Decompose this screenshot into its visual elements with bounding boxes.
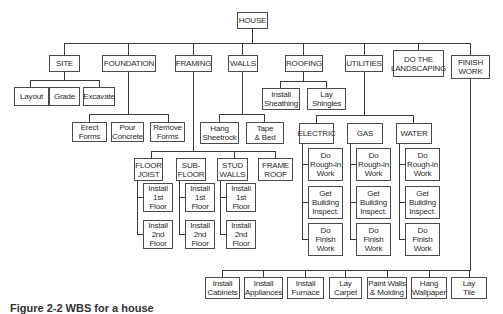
node-gas: GAS [347,123,383,144]
connector [242,71,243,114]
node-hang-wallpaper: Hang Wallpaper [411,277,447,299]
connector [30,80,31,87]
node-pour-concrete: Pour Concrete [111,122,144,142]
node-tape-and-bed: Tape & Bed [246,122,284,144]
node-floor-joist: FLOOR JOIST [134,158,163,181]
connector [252,28,253,43]
connector [222,270,471,271]
node-erect-forms: Erect Forms [72,122,107,142]
connector [151,151,152,158]
connector [280,81,281,88]
connector [30,80,100,81]
node-sub-floor: SUB- FLOOR [176,158,206,181]
connector [128,43,129,55]
connector [168,114,169,122]
connector [350,143,351,239]
node-floor-joist-install-2nd: Install 2nd Floor [143,220,173,249]
node-walls: WALLS [228,55,258,72]
node-electric-rough-in: Do Rough-in Work [308,148,343,181]
node-water-inspection: Get Building Inspect. [405,186,440,219]
node-layout: Layout [14,87,49,106]
node-install-cabinets: Install Cabinets [205,277,240,299]
connector [303,43,304,55]
connector [193,43,194,55]
node-electric: ELECTRIC [299,123,334,144]
connector [242,43,243,55]
node-install-furnace: Install Furnace [287,277,324,299]
connector [429,270,430,277]
node-sub-floor-install-2nd: Install 2nd Floor [185,220,215,249]
node-electric-finish: Do Finish Work [308,223,343,256]
node-framing: FRAMING [175,55,212,72]
connector [89,114,168,115]
connector [99,80,100,87]
connector [263,270,264,277]
connector [222,270,223,277]
node-stud-walls-install-2nd: Install 2nd Floor [226,220,256,249]
node-water-rough-in: Do Rough-in Work [405,148,440,181]
node-install-appliances: Install Appliances [244,277,283,299]
node-site: SITE [49,55,80,72]
connector [64,71,65,80]
connector [151,151,276,152]
connector [64,43,65,55]
node-roofing: ROOFING [285,55,323,72]
connector [302,143,303,239]
connector [128,71,129,114]
connector [316,115,414,116]
connector [305,270,306,277]
node-utilities: UTILITIES [345,55,383,72]
node-foundation: FOUNDATION [102,55,156,72]
node-stud-walls-install-1st: Install 1st Floor [226,183,256,212]
connector [64,43,471,44]
node-gas-rough-in: Do Rough-in Work [356,148,391,181]
node-lay-shingles: Lay Shingles [307,88,346,110]
connector [469,270,470,277]
connector [137,180,138,234]
node-finish-work: FINISH WORK [451,55,490,79]
connector [280,81,327,82]
node-paint-walls: Paint Walls & Molding [367,277,407,299]
node-house: HOUSE [237,12,268,29]
connector [345,270,346,277]
node-gas-inspection: Get Building Inspect. [356,186,391,219]
node-lay-tile: Lay Tile [451,277,487,299]
node-grade: Grade [49,87,80,106]
node-landscaping: DO THE LANDSCAPING [393,50,444,77]
connector [316,115,317,123]
connector [364,43,365,55]
connector [470,43,471,55]
connector [89,114,90,122]
connector [193,71,194,151]
node-water: WATER [396,123,432,144]
node-frame-roof: FRAME ROOF [258,158,293,181]
node-stud-walls: STUD WALLS [217,158,248,181]
node-floor-joist-install-1st: Install 1st Floor [143,183,173,212]
connector [219,114,265,115]
connector [387,270,388,277]
connector [264,114,265,122]
node-remove-forms: Remove Forms [150,122,185,142]
connector [234,151,235,158]
node-install-sheathing: Install Sheathing [262,88,300,110]
node-water-finish: Do Finish Work [405,223,440,256]
connector [220,180,221,234]
node-lay-carpet: Lay Carpet [329,277,362,299]
node-electric-inspection: Get Building Inspect. [308,186,343,219]
node-hang-sheetrock: Hang Sheetrock [200,122,239,144]
connector [303,71,304,81]
connector [326,81,327,88]
connector [470,78,471,270]
connector [275,151,276,158]
node-gas-finish: Do Finish Work [356,223,391,256]
node-sub-floor-install-1st: Install 1st Floor [185,183,215,212]
connector [219,114,220,122]
connector [399,143,400,239]
node-excavate: Excavate [83,87,115,106]
connector [364,71,365,115]
connector [179,180,180,234]
connector [413,115,414,123]
connector [418,43,419,50]
figure-caption: Figure 2-2 WBS for a house [10,302,154,314]
